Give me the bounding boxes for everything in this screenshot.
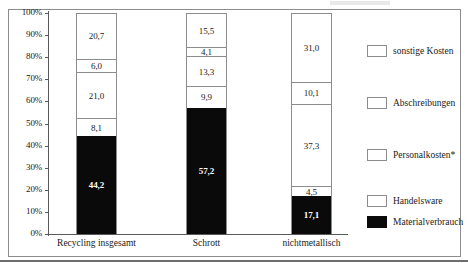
- bar-segment-value: 31,0: [304, 43, 319, 53]
- bar-segment[interactable]: 44,2: [77, 136, 116, 234]
- scan-edge: [0, 260, 468, 262]
- legend-item[interactable]: Handelsware: [367, 195, 443, 207]
- y-axis-tick-label: 0%: [8, 229, 42, 238]
- bar-segment[interactable]: 57,2: [187, 108, 226, 234]
- bar-segment[interactable]: 6,0: [77, 59, 116, 72]
- bar-segment-value: 37,3: [304, 141, 319, 151]
- bar-segment-value: 9,9: [201, 92, 212, 102]
- bar-segment[interactable]: 20,7: [77, 13, 116, 59]
- bar-segment[interactable]: 31,0: [292, 13, 331, 82]
- bar-segment-value: 10,1: [304, 88, 319, 98]
- bar-segment-value: 4,5: [306, 187, 317, 197]
- plot-area: 44,28,121,06,020,757,29,913,34,115,517,1…: [48, 13, 348, 234]
- y-axis-tick-label: 10%: [8, 207, 42, 216]
- bar-segment-value: 44,2: [89, 180, 104, 190]
- y-axis-tick-mark: [45, 234, 49, 235]
- bar-segment-value: 13,3: [199, 67, 214, 77]
- bar-segment[interactable]: 13,3: [187, 56, 226, 85]
- legend-swatch: [367, 45, 387, 57]
- x-axis-label: Schrott: [147, 238, 267, 249]
- y-axis-tick-label: 90%: [8, 30, 42, 39]
- bar-segment-value: 57,2: [199, 166, 214, 176]
- y-axis-tick-label: 50%: [8, 119, 42, 128]
- legend-item[interactable]: Personalkosten*: [367, 149, 455, 161]
- y-axis-tick-label: 80%: [8, 52, 42, 61]
- bar-segment[interactable]: 8,1: [77, 118, 116, 136]
- y-axis-tick-label: 40%: [8, 141, 42, 150]
- y-axis-tick-label: 20%: [8, 185, 42, 194]
- legend-item[interactable]: Abschreibungen: [367, 97, 455, 109]
- bar-segment-value: 4,1: [201, 47, 212, 57]
- bar-segment-value: 20,7: [89, 31, 104, 41]
- bar-segment[interactable]: 4,5: [292, 186, 331, 196]
- legend-label: Materialverbrauch: [393, 217, 463, 227]
- chart-legend: sonstige KostenAbschreibungenPersonalkos…: [367, 13, 463, 234]
- y-axis-tick-label: 60%: [8, 96, 42, 105]
- x-axis-line: [48, 234, 348, 235]
- legend-swatch: [367, 216, 387, 228]
- legend-item[interactable]: Materialverbrauch: [367, 216, 463, 228]
- bar-segment-value: 17,1: [304, 210, 319, 220]
- bar-segment[interactable]: 9,9: [187, 86, 226, 108]
- legend-label: sonstige Kosten: [393, 46, 453, 56]
- bar-segment-value: 8,1: [91, 123, 102, 133]
- y-axis-tick-label: 30%: [8, 163, 42, 172]
- y-axis-tick-label: 70%: [8, 74, 42, 83]
- legend-swatch: [367, 97, 387, 109]
- legend-label: Abschreibungen: [393, 98, 455, 108]
- x-axis-label: Recycling insgesamt: [37, 238, 157, 249]
- bar-segment[interactable]: 17,1: [292, 196, 331, 234]
- bar-segment[interactable]: 4,1: [187, 47, 226, 56]
- bar-column[interactable]: 44,28,121,06,020,7: [76, 13, 117, 234]
- bar-segment-value: 15,5: [199, 26, 214, 36]
- bar-segment[interactable]: 37,3: [292, 104, 331, 186]
- bar-column[interactable]: 57,29,913,34,115,5: [186, 13, 227, 234]
- bar-segment-value: 21,0: [89, 91, 104, 101]
- x-axis-label: nichtmetallisch: [252, 238, 372, 249]
- scan-artifact: [330, 1, 390, 5]
- legend-label: Personalkosten*: [393, 150, 455, 160]
- legend-swatch: [367, 195, 387, 207]
- bar-segment-value: 6,0: [91, 61, 102, 71]
- legend-swatch: [367, 149, 387, 161]
- legend-item[interactable]: sonstige Kosten: [367, 45, 453, 57]
- bar-segment[interactable]: 21,0: [77, 72, 116, 118]
- legend-label: Handelsware: [393, 196, 443, 206]
- bar-column[interactable]: 17,14,537,310,131,0: [291, 13, 332, 234]
- bar-segment[interactable]: 10,1: [292, 82, 331, 104]
- bar-segment[interactable]: 15,5: [187, 13, 226, 47]
- y-axis-tick-label: 100%: [8, 8, 42, 17]
- chart-container: 100%90%80%70%60%50%40%30%20%10%0% 44,28,…: [0, 0, 468, 263]
